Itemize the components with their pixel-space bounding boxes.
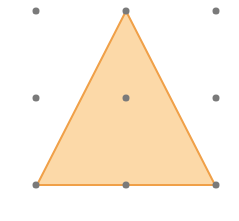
- grid-dot: [213, 95, 220, 102]
- grid-dot: [123, 182, 130, 189]
- grid-dot: [123, 8, 130, 15]
- grid-dot: [33, 95, 40, 102]
- grid-dot: [213, 182, 220, 189]
- grid-dot: [33, 8, 40, 15]
- grid-dot: [213, 8, 220, 15]
- dot-grid-diagram: [0, 0, 239, 221]
- grid-dot: [33, 182, 40, 189]
- grid-dot: [123, 95, 130, 102]
